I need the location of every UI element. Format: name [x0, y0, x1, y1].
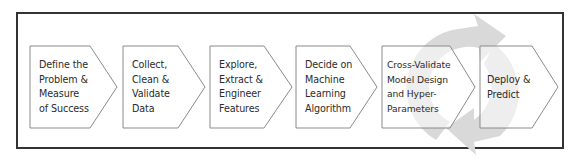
step-label-collect-data: Collect, Clean & Validate Data: [132, 58, 170, 116]
step-label-decide-algorithm: Decide on Machine Learning Algorithm: [305, 58, 352, 116]
step-label-cross-validate: Cross-Validate Model Design and Hyper- P…: [387, 58, 451, 116]
step-label-define-problem: Define the Problem & Measure of Success: [39, 58, 89, 116]
step-label-deploy-predict: Deploy & Predict: [487, 73, 530, 102]
step-label-explore-features: Explore, Extract & Engineer Features: [219, 58, 263, 116]
